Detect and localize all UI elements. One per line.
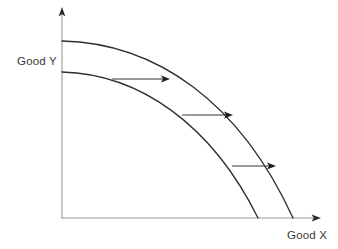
x-axis-label: Good X [287, 229, 327, 242]
shift-arrow-bottom [232, 163, 276, 170]
ppf-chart-canvas [0, 0, 338, 249]
outer-ppf-curve [62, 41, 293, 218]
shift-arrow-top [112, 76, 170, 83]
shift-arrow-middle [182, 112, 233, 119]
inner-ppf-curve [62, 72, 258, 218]
ppf-diagram: Good Y Good X [0, 0, 338, 249]
y-axis-label: Good Y [17, 55, 57, 68]
